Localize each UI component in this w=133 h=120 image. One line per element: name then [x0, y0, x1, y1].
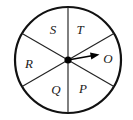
sector-label-Q: Q — [51, 82, 61, 97]
sector-label-R: R — [24, 56, 33, 71]
spinner-figure: S T O P Q R — [0, 0, 133, 120]
sector-label-P: P — [78, 81, 87, 96]
spinner-center-hub — [64, 56, 71, 63]
sector-label-S: S — [50, 22, 57, 37]
sector-label-T: T — [76, 22, 84, 37]
sector-label-O: O — [103, 51, 113, 66]
spinner-wheel-graphic[interactable]: S T O P Q R — [0, 0, 133, 120]
